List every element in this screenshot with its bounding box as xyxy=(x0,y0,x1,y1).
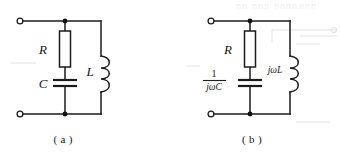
top-node-a xyxy=(63,19,68,24)
circuit-b: R 1 jωC jωL ( b ) xyxy=(203,18,298,146)
resistor-R-a xyxy=(60,31,71,67)
capacitor-Zc-b-denominator: jωC xyxy=(204,82,222,92)
capacitor-C-a-label: C xyxy=(39,76,48,91)
inductor-ZL-b xyxy=(290,56,298,92)
top-node-b xyxy=(248,19,253,24)
resistor-R-a-label: R xyxy=(38,42,47,57)
bottom-node-b xyxy=(248,112,253,117)
inductor-L-a-label: L xyxy=(85,64,93,79)
inductor-ZL-b-label: jωL xyxy=(266,65,283,75)
caption-b: ( b ) xyxy=(242,133,262,146)
circuit-schematic-svg: กก กกก กกกกกกก xyxy=(0,0,341,153)
top-left-terminal-a[interactable] xyxy=(17,18,23,24)
bottom-left-terminal-b[interactable] xyxy=(208,111,214,117)
inductor-L-a xyxy=(101,56,109,92)
top-left-terminal-b[interactable] xyxy=(208,18,214,24)
resistor-R-b xyxy=(245,31,256,67)
bottom-node-a xyxy=(63,112,68,117)
capacitor-Zc-b-numerator: 1 xyxy=(212,68,217,79)
circuit-a: R C L ( a ) xyxy=(17,18,109,146)
resistor-R-b-label: R xyxy=(223,42,232,57)
caption-a: ( a ) xyxy=(53,133,72,146)
capacitor-Zc-b-label: 1 jωC xyxy=(203,68,226,92)
figure-root: กก กกก กกกกกกก xyxy=(0,0,341,153)
bottom-left-terminal-a[interactable] xyxy=(17,111,23,117)
scan-artifact-text: กก กกก กกกกกกก xyxy=(236,2,317,11)
